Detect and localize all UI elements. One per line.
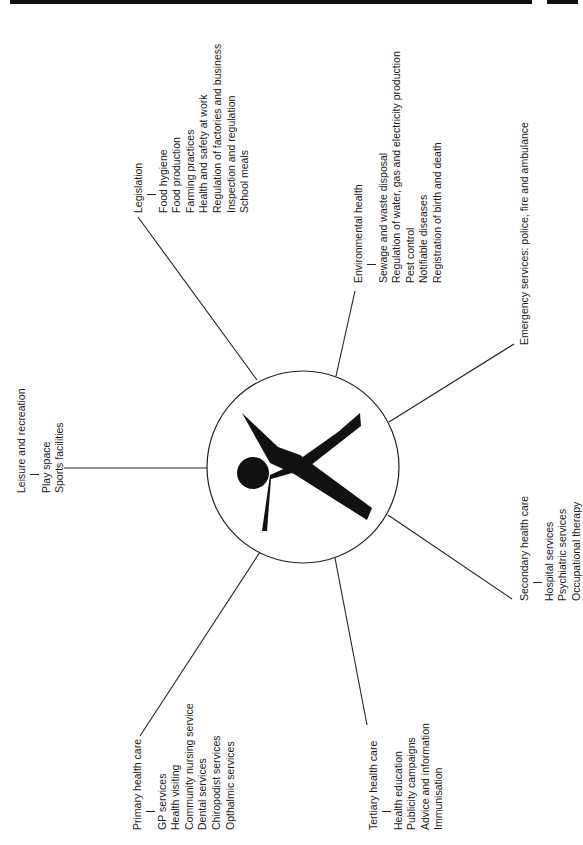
branch-item: Health visiting xyxy=(169,703,183,830)
branch-item: Sports facilities xyxy=(53,389,67,493)
branch-item: Regulation of water, gas and electricity… xyxy=(390,51,404,283)
branch-item: Food hygiene xyxy=(157,44,171,213)
branch-item: Regulation of factories and business xyxy=(211,44,225,213)
branch-title: Environmental health xyxy=(352,51,366,283)
connector-legislation xyxy=(138,217,257,380)
branch-item: Registration of birth and death xyxy=(431,51,445,283)
branch-title: Tertiary health care xyxy=(367,723,381,830)
branch-secondary: Secondary health care Hospital services … xyxy=(518,496,583,601)
connector-environmental xyxy=(336,291,355,376)
branch-legislation: Legislation Food hygiene Food production… xyxy=(132,44,252,213)
branch-item: Farming practices xyxy=(184,44,198,213)
branch-item: Play space xyxy=(40,389,54,493)
branch-item: Chiropodist services xyxy=(210,703,224,830)
branch-title: Leisure and recreation xyxy=(15,389,29,493)
branch-item: Publicity campaigns xyxy=(405,723,419,830)
branch-item: Psychiatric services xyxy=(556,496,570,601)
title-separator xyxy=(367,264,376,265)
branch-item: Dental services xyxy=(196,703,210,830)
branch-title: Emergency services: police, fire and amb… xyxy=(518,122,532,345)
branch-item: Immunisation xyxy=(432,723,446,830)
branch-environmental: Environmental health Sewage and waste di… xyxy=(352,51,445,283)
connector-tertiary xyxy=(335,558,367,725)
connector-emergency xyxy=(389,344,514,422)
branch-items: Play space Sports facilities xyxy=(40,389,67,493)
title-separator xyxy=(30,474,39,475)
branch-item: Occupational therapy xyxy=(570,496,583,601)
branch-item: Sewage and waste disposal xyxy=(377,51,391,283)
branch-title: Legislation xyxy=(132,44,146,213)
branch-tertiary: Tertiary health care Health education Pu… xyxy=(367,723,446,830)
branch-item: Notifiable diseases xyxy=(417,51,431,283)
title-separator xyxy=(146,811,155,812)
branch-title: Secondary health care xyxy=(518,496,532,601)
branch-item: GP services xyxy=(156,703,170,830)
branch-item: Opthalmic services xyxy=(224,703,238,830)
branch-primary: Primary health care GP services Health v… xyxy=(131,703,237,830)
title-separator xyxy=(533,582,542,583)
title-separator xyxy=(382,811,391,812)
branch-emergency: Emergency services: police, fire and amb… xyxy=(518,122,532,345)
branch-item: Inspection and regulation xyxy=(225,44,239,213)
branch-title: Primary health care xyxy=(131,703,145,830)
branch-item: Food production xyxy=(170,44,184,213)
branch-item: Pest control xyxy=(404,51,418,283)
branch-item: Health and safety at work xyxy=(197,44,211,213)
branch-item: Community nursing service xyxy=(183,703,197,830)
connector-secondary xyxy=(388,515,512,599)
title-separator xyxy=(147,194,156,195)
branch-item: Health education xyxy=(392,723,406,830)
branch-item: School meals xyxy=(238,44,252,213)
branch-item: Advice and information xyxy=(419,723,433,830)
branch-item: Hospital services xyxy=(543,496,557,601)
branch-leisure: Leisure and recreation Play space Sports… xyxy=(15,389,67,493)
